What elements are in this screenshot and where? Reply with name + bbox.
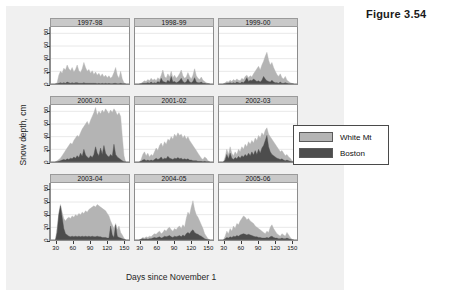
y-tick-label: 60 [43,198,49,205]
panel-1997-98: 1997-98020406080 [50,18,130,85]
panel-strip-label: 2002-03 [218,96,298,105]
y-tick-label: 20 [43,224,49,231]
x-tick-mark [174,241,175,244]
x-tick-label: 150 [119,245,129,251]
x-axis-ticks: 306090120150 [134,241,214,255]
x-tick-label: 90 [255,245,262,251]
y-axis-ticks: 020406080 [35,105,50,163]
panel-plot-area [50,183,130,241]
x-tick-mark [56,241,57,244]
y-axis-spine [49,183,50,241]
panel-strip-label: 1997-98 [50,18,130,27]
panel-2003-04: 2003-04020406080306090120150 [50,174,130,241]
y-tick-label: 0 [43,82,49,85]
x-tick-mark [191,241,192,244]
x-tick-mark [241,241,242,244]
panel-2002-03: 2002-03 [218,96,298,163]
panel-plot-area [218,183,298,241]
panel-2000-01: 2000-01020406080 [50,96,130,163]
legend-swatch-boston [299,148,333,158]
x-tick-mark [208,241,209,244]
legend-label-boston: Boston [340,149,365,158]
x-tick-label: 30 [220,245,227,251]
x-axis-ticks: 306090120150 [218,241,298,255]
panel-strip-label: 2005-06 [218,174,298,183]
x-tick-mark [140,241,141,244]
x-tick-mark [73,241,74,244]
x-tick-mark [224,241,225,244]
x-tick-label: 120 [186,245,196,251]
y-tick-label: 20 [43,146,49,153]
panel-strip-label: 1998-99 [134,18,214,27]
chart-legend: White Mt Boston [293,125,389,165]
x-tick-label: 90 [171,245,178,251]
figure-label: Figure 3.54 [366,8,426,20]
area-series-white-mt [55,62,125,84]
x-tick-label: 120 [270,245,280,251]
panel-plot-area [134,183,214,241]
panel-plot-area [218,105,298,163]
y-axis-spine [49,105,50,163]
y-tick-label: 60 [43,120,49,127]
y-tick-label: 20 [43,68,49,75]
x-tick-label: 90 [87,245,94,251]
panel-strip-label: 2003-04 [50,174,130,183]
y-axis-ticks: 020406080 [35,183,50,241]
area-series-white-mt [139,133,209,162]
panel-1998-99: 1998-99 [134,18,214,85]
panel-plot-area [134,27,214,85]
area-series-white-mt [139,201,209,240]
x-tick-label: 60 [154,245,161,251]
x-tick-mark [157,241,158,244]
panel-strip-label: 2004-05 [134,174,214,183]
legend-item-boston: Boston [299,146,383,160]
y-axis-ticks: 020406080 [35,27,50,85]
panel-strip-label: 1999-00 [218,18,298,27]
panel-plot-area [218,27,298,85]
legend-label-white-mt: White Mt [340,133,372,142]
figure-container: Figure 3.54 Snow depth, cm Days since No… [0,0,457,296]
y-tick-label: 0 [43,238,49,241]
area-series-white-mt [223,52,293,84]
x-tick-mark [292,241,293,244]
y-tick-label: 40 [43,211,49,218]
legend-item-white-mt: White Mt [299,130,383,144]
x-tick-label: 30 [52,245,59,251]
panel-grid: 1997-980204060801998-991999-002000-01020… [50,18,304,258]
x-tick-label: 120 [102,245,112,251]
x-axis-title: Days since November 1 [36,272,306,282]
panel-plot-area [50,105,130,163]
y-tick-label: 40 [43,55,49,62]
panel-plot-area [134,105,214,163]
panel-2005-06: 2005-06306090120150 [218,174,298,241]
y-tick-label: 80 [43,29,49,36]
x-tick-label: 150 [203,245,213,251]
x-tick-label: 60 [238,245,245,251]
legend-swatch-white-mt [299,132,333,142]
panel-2001-02: 2001-02 [134,96,214,163]
y-tick-label: 0 [43,160,49,163]
x-tick-mark [90,241,91,244]
x-tick-mark [258,241,259,244]
y-axis-title: Snow depth, cm [18,75,28,195]
x-tick-mark [124,241,125,244]
x-tick-label: 60 [70,245,77,251]
panel-plot-area [50,27,130,85]
x-tick-mark [107,241,108,244]
y-axis-spine [49,27,50,85]
x-tick-label: 30 [136,245,143,251]
y-tick-label: 40 [43,133,49,140]
x-axis-ticks: 306090120150 [50,241,130,255]
y-tick-label: 80 [43,107,49,114]
y-tick-label: 60 [43,42,49,49]
x-tick-mark [275,241,276,244]
y-tick-label: 80 [43,185,49,192]
panel-2004-05: 2004-05306090120150 [134,174,214,241]
x-tick-label: 150 [287,245,297,251]
panel-strip-label: 2000-01 [50,96,130,105]
panel-1999-00: 1999-00 [218,18,298,85]
panel-strip-label: 2001-02 [134,96,214,105]
